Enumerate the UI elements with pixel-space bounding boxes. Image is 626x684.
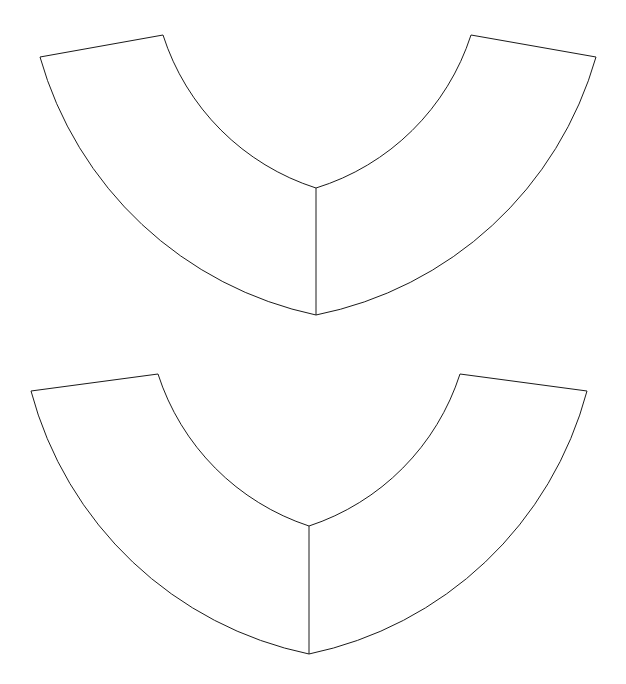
caption-ghost-text bbox=[0, 670, 626, 684]
pattern-pieces-drawing bbox=[0, 0, 626, 684]
figure-canvas bbox=[0, 0, 626, 684]
